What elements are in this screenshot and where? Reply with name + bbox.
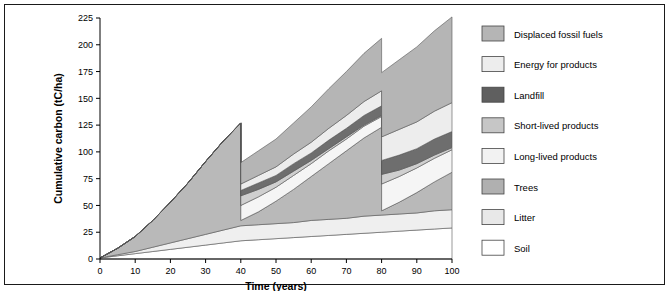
legend-swatch-long-lived-products [482,148,504,163]
x-axis-title: Time (years) [245,280,307,291]
x-tick-label: 80 [377,266,387,276]
y-tick-label: 0 [88,254,93,264]
chart-canvas: 0255075100125150175200225010203040506070… [0,0,671,291]
y-axis-title: Cumulative carbon (tC/ha) [52,73,64,204]
legend-label-long-lived-products: Long-lived products [514,151,597,162]
legend-swatch-short-lived-products [482,118,504,133]
y-tick-label: 100 [78,147,93,157]
legend-label-short-lived-products: Short-lived products [514,120,599,131]
x-tick-label: 70 [341,266,351,276]
x-tick-label: 90 [412,266,422,276]
legend-label-displaced-fossil-fuels: Displaced fossil fuels [514,29,603,40]
x-tick-label: 60 [306,266,316,276]
y-tick-label: 50 [83,201,93,211]
y-tick-label: 150 [78,94,93,104]
y-tick-label: 175 [78,67,93,77]
legend-label-trees: Trees [514,182,538,193]
x-tick-label: 30 [201,266,211,276]
chart-figure: 0255075100125150175200225010203040506070… [0,0,671,291]
legend-swatch-soil [482,240,504,255]
y-tick-label: 125 [78,120,93,130]
legend-label-litter: Litter [514,212,535,223]
legend-label-energy-for-products: Energy for products [514,59,597,70]
x-tick-label: 40 [236,266,246,276]
y-tick-label: 25 [83,227,93,237]
legend-swatch-trees [482,179,504,194]
x-tick-label: 10 [130,266,140,276]
legend-swatch-energy-for-products [482,57,504,72]
legend-label-soil: Soil [514,243,530,254]
legend-label-landfill: Landfill [514,90,544,101]
x-tick-label: 100 [444,266,459,276]
y-tick-label: 200 [78,40,93,50]
area-chart-svg: 0255075100125150175200225010203040506070… [0,0,671,291]
legend-swatch-displaced-fossil-fuels [482,26,504,41]
y-tick-label: 225 [78,13,93,23]
x-tick-label: 20 [165,266,175,276]
x-tick-label: 50 [271,266,281,276]
x-tick-label: 0 [97,266,102,276]
legend-swatch-landfill [482,87,504,102]
legend-swatch-litter [482,210,504,225]
y-tick-label: 75 [83,174,93,184]
